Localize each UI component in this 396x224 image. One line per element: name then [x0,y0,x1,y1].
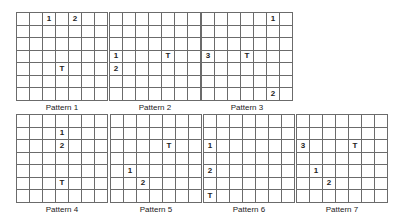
target-marker: T [56,63,69,76]
target-marker: T [163,140,176,153]
grid-cell [254,76,267,89]
grid-cell [241,88,254,101]
grid-cell [162,63,175,76]
grid-cell [269,165,282,178]
grid-cell [82,165,95,178]
pattern-5: T12Pattern 5 [110,114,202,214]
grid-cell [215,51,228,64]
grid-cell [280,51,293,64]
grid-cell [204,178,217,191]
grid-cell [230,140,243,153]
grid-cell [123,88,136,101]
grid-cell [280,88,293,101]
grid-cell [175,88,188,101]
grid-cell [241,38,254,51]
grid-cell [256,128,269,141]
grid-cell [17,190,30,203]
grid-cell [124,153,137,166]
grid-cell [111,190,124,203]
grid-cell [188,38,201,51]
grid-cell [82,63,95,76]
grid-cell [111,178,124,191]
grid-cell [69,51,82,64]
grid-cell [269,153,282,166]
grid-cell [69,88,82,101]
grid-cell [82,190,95,203]
grid-cell [230,178,243,191]
grid-cell [82,140,95,153]
grid-cell [82,178,95,191]
grid-cell [150,115,163,128]
grid-cell [297,128,310,141]
grid-cell [149,51,162,64]
sequence-marker: 1 [43,13,56,26]
grid-cell [124,128,137,141]
grid-cell [69,115,82,128]
grid-cell [82,38,95,51]
grid-cell [17,38,30,51]
grid-cell [256,165,269,178]
grid-cell [56,153,69,166]
grid-cell [17,63,30,76]
grid-cell [189,165,202,178]
pattern-label: Pattern 2 [109,103,201,112]
grid-cell [310,178,323,191]
grid-cell [149,38,162,51]
grid-cell [137,115,150,128]
grid-cell [69,190,82,203]
grid-cell [282,140,295,153]
grid-cell [43,128,56,141]
sequence-marker: 3 [202,51,215,64]
grid-cell [349,153,362,166]
grid-cell [228,51,241,64]
grid-cell [254,63,267,76]
grid-cell [215,76,228,89]
grid-cell [336,115,349,128]
sequence-marker: 1 [110,51,123,64]
grid-cell [111,165,124,178]
pattern-label: Pattern 6 [203,205,295,214]
grid-cell [69,178,82,191]
grid-cell [175,13,188,26]
grid-cell [280,13,293,26]
grid-cell [162,13,175,26]
grid-cell [282,165,295,178]
grid-cell [375,190,388,203]
sequence-marker: 2 [69,13,82,26]
grid-cell [123,63,136,76]
grid-cell [297,165,310,178]
grid-cell [310,140,323,153]
grid-cell [95,153,108,166]
grid-cell [95,63,108,76]
grid-cell [82,88,95,101]
grid-cell [43,63,56,76]
grid-cell [82,51,95,64]
grid-cell [282,128,295,141]
grid-cell [17,128,30,141]
grid-cell [188,88,201,101]
grid-cell [43,178,56,191]
grid-cell [176,165,189,178]
sequence-marker: 2 [110,63,123,76]
pattern-6: 12TPattern 6 [203,114,295,214]
grid-cell [149,63,162,76]
grid-cell [56,88,69,101]
grid-cell [111,140,124,153]
grid-cell [124,178,137,191]
grid-cell [269,178,282,191]
grid-cell [82,115,95,128]
grid-cell [69,76,82,89]
sequence-marker: 2 [137,178,150,191]
grid-cell [162,76,175,89]
grid-cell [349,128,362,141]
grid-cell [30,88,43,101]
grid-cell [362,153,375,166]
grid-cell [82,153,95,166]
grid-cell [136,13,149,26]
grid-cell [241,26,254,39]
grid-cell [176,190,189,203]
grid-cell [95,165,108,178]
grid-cell [282,178,295,191]
grid-cell [362,165,375,178]
grid-cell [17,178,30,191]
